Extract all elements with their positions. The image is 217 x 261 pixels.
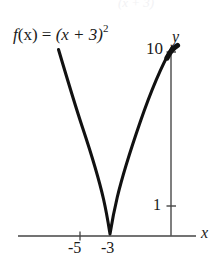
x-tick-label-neg5: -5 [68, 240, 81, 256]
equation-arg: (x) [18, 25, 38, 44]
function-equation-label: f(x) = (x + 3)2 [13, 24, 109, 43]
equation-body: (x + 3) [56, 25, 103, 44]
y-tick-label-10: 10 [146, 40, 163, 57]
parabola-figure: (x + 3) f(x) = (x + 3)2 10 y 1 -5 -3 x [0, 0, 217, 261]
x-tick-label-neg3: -3 [101, 240, 114, 256]
equation-exponent: 2 [103, 22, 109, 34]
equation-equals: = [38, 25, 56, 44]
y-axis-label: y [172, 29, 179, 45]
y-tick-label-1: 1 [153, 197, 161, 213]
x-axis-label: x [201, 225, 208, 241]
